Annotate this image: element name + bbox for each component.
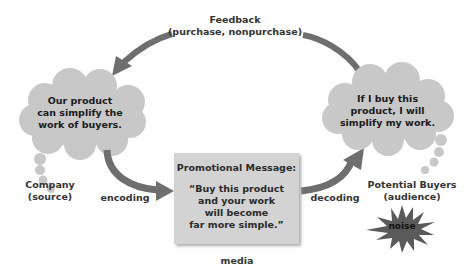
encoding-label: encoding xyxy=(95,192,155,204)
message-body: “Buy this product and your work will bec… xyxy=(174,183,299,231)
message-line: far more simple.” xyxy=(174,219,299,231)
message-line: will become xyxy=(174,207,299,219)
source-cloud-line: work of buyers. xyxy=(30,119,130,131)
receiver-label-subtitle: (audience) xyxy=(362,191,462,203)
feedback-title: Feedback xyxy=(150,14,320,26)
message-line: “Buy this product xyxy=(174,183,299,195)
decoding-arrow xyxy=(301,148,364,191)
source-cloud-line: can simplify the xyxy=(30,107,130,119)
source-label-title: Company xyxy=(15,179,85,191)
feedback-arrow xyxy=(112,34,360,76)
decoding-label: decoding xyxy=(305,192,365,204)
feedback-label: Feedback (purchase, nonpurchase) xyxy=(150,14,320,38)
receiver-cloud-line: simplify my work. xyxy=(335,117,440,129)
source-cloud-text: Our product can simplify the work of buy… xyxy=(30,95,130,131)
source-label-subtitle: (source) xyxy=(15,191,85,203)
noise-label: noise xyxy=(367,221,437,231)
receiver-label: Potential Buyers (audience) xyxy=(362,179,462,203)
receiver-cloud-text: If I buy this product, I will simplify m… xyxy=(335,93,440,129)
receiver-label-title: Potential Buyers xyxy=(362,179,462,191)
feedback-subtitle: (purchase, nonpurchase) xyxy=(150,26,320,38)
message-title: Promotional Message: xyxy=(174,162,299,173)
promotional-message-box: Promotional Message: “Buy this product a… xyxy=(174,153,299,244)
message-line: and your work xyxy=(174,195,299,207)
media-label: media xyxy=(207,255,267,267)
receiver-cloud-line: product, I will xyxy=(335,105,440,117)
source-label: Company (source) xyxy=(15,179,85,203)
source-cloud-line: Our product xyxy=(30,95,130,107)
receiver-cloud-line: If I buy this xyxy=(335,93,440,105)
